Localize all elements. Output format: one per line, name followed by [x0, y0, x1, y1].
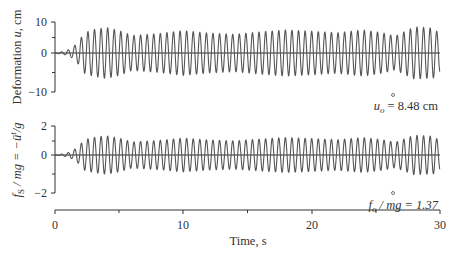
figure: 10 0 −10 Deformation u, cm uo = 8.48 cm … [0, 0, 467, 257]
bottom-peak-marker [392, 192, 395, 195]
xtick-label-10: 10 [177, 218, 189, 232]
bottom-peak-annotation: fo / mg = 1.37 [368, 198, 438, 214]
bottom-y-axis-title: fS / mg = −üt/g [8, 122, 26, 197]
bottom-force-series [55, 135, 440, 174]
top-ytick-label-m10: −10 [28, 85, 47, 99]
xtick-label-30: 30 [434, 218, 446, 232]
top-y-axis-title: Deformation u, cm [10, 9, 24, 104]
top-peak-marker [392, 94, 395, 97]
top-panel: 10 0 −10 Deformation u, cm uo = 8.48 cm [10, 9, 440, 115]
bottom-ytick-label-m2: −2 [34, 186, 47, 200]
x-axis: 0 10 20 30 Time, s [52, 210, 446, 248]
xtick-label-20: 20 [306, 218, 318, 232]
top-deformation-series [55, 27, 440, 79]
bottom-ytick-label-2: 2 [41, 119, 47, 133]
bottom-panel: 2 0 −2 fS / mg = −üt/g fo / mg = 1.37 [8, 119, 440, 214]
top-ytick-label-10: 10 [35, 15, 47, 29]
xtick-label-0: 0 [52, 218, 58, 232]
top-ytick-label-0: 0 [41, 46, 47, 60]
top-peak-annotation: uo = 8.48 cm [374, 99, 439, 115]
x-axis-title: Time, s [229, 234, 266, 248]
bottom-ytick-label-0: 0 [41, 148, 47, 162]
